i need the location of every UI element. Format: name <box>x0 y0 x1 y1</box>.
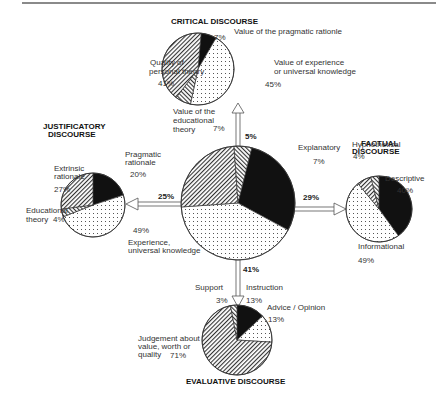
factual-hypothetical-label: Hyphothetical <box>352 140 400 149</box>
eval-support-label: Support <box>195 283 223 292</box>
arrow-justificatory-pct: 25% <box>158 192 174 201</box>
factual-hypothetical-pct: 4% <box>353 152 365 161</box>
eval-instruction-label: Instruction <box>246 283 283 292</box>
critical-pragmatic-label: Value of the pragmatic rationle <box>234 27 342 36</box>
pie-center <box>181 146 295 260</box>
just-experience-pct: 49% <box>133 226 149 235</box>
pie-justificatory <box>61 173 125 237</box>
arrow-factual-pct: 29% <box>303 193 319 202</box>
factual-descriptive-label: Descriptive <box>385 174 425 183</box>
factual-informational-pct: 49% <box>358 256 374 265</box>
critical-educational-label-1: Value of the <box>173 107 215 116</box>
pie-charts <box>0 0 443 397</box>
arrow-to-factual <box>294 203 346 215</box>
critical-educational-label-3: theory <box>173 125 195 134</box>
just-educational-label-1: Educational <box>26 206 68 215</box>
arrow-to-justificatory <box>126 198 184 210</box>
eval-advice-pct: 13% <box>268 315 284 324</box>
pie-evaluative <box>202 305 272 375</box>
evaluative-title: EVALUATIVE DISCOURSE <box>186 377 285 386</box>
just-pragmatic-pct: 20% <box>130 170 146 179</box>
eval-judgement-label-3: quality <box>138 350 161 359</box>
arrow-evaluative-pct: 41% <box>243 265 259 274</box>
factual-explanatory-label: Explanatory <box>298 143 340 152</box>
just-pragmatic-label-2: rationale <box>125 158 156 167</box>
just-educational-label-2: theory <box>26 215 48 224</box>
just-extrinsic-label-2: rationale <box>54 172 85 181</box>
factual-informational-label: Informational <box>358 242 404 251</box>
critical-personal-label-1: Quality of <box>150 58 184 67</box>
critical-pragmatic-pct: 7% <box>214 33 226 42</box>
critical-personal-pct: 41% <box>158 79 174 88</box>
critical-experience-label-2: or universal knowledge <box>274 67 356 76</box>
critical-educational-label-2: educational <box>173 116 214 125</box>
critical-educational-pct: 7% <box>213 124 225 133</box>
arrow-to-critical <box>232 103 244 149</box>
just-extrinsic-pct: 27% <box>54 185 70 194</box>
just-educational-pct: 4% <box>53 215 65 224</box>
eval-judgement-pct: 71% <box>170 351 186 360</box>
eval-advice-label: Advice / Opinion <box>267 303 325 312</box>
discourse-diagram: CRITICAL DISCOURSE 7% Value of the pragm… <box>0 0 443 397</box>
eval-support-pct: 3% <box>216 296 228 305</box>
arrow-critical-pct: 5% <box>245 132 257 141</box>
critical-title: CRITICAL DISCOURSE <box>171 17 258 26</box>
factual-descriptive-pct: 40% <box>397 186 413 195</box>
critical-experience-pct: 45% <box>265 80 281 89</box>
eval-instruction-pct: 13% <box>246 296 262 305</box>
critical-personal-label-2: personal theory <box>149 67 204 76</box>
just-experience-label-2: universal knowledge <box>128 246 201 255</box>
critical-experience-label-1: Value of experience <box>274 58 344 67</box>
pie-slice <box>181 146 238 207</box>
justificatory-title-2: DISCOURSE <box>48 130 96 139</box>
factual-explanatory-pct: 7% <box>313 157 325 166</box>
